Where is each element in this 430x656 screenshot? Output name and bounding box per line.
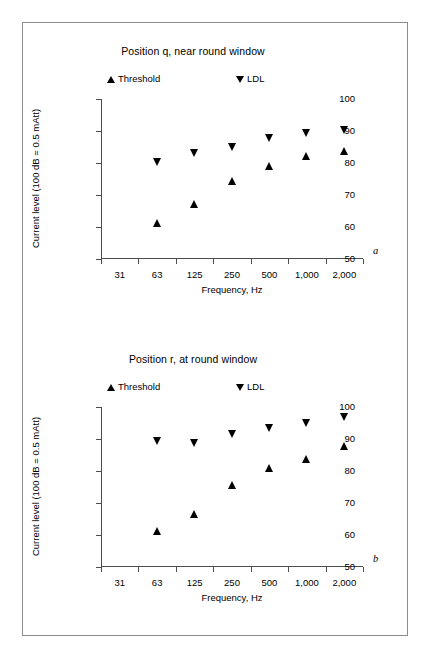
data-point-threshold bbox=[228, 481, 236, 489]
x-axis-tick bbox=[288, 259, 289, 264]
y-axis-tick-label: 70 bbox=[329, 498, 355, 508]
chart-panel-a: Position q, near round window Threshold … bbox=[23, 35, 409, 325]
x-axis-tick bbox=[101, 567, 102, 572]
y-axis-tick-label: 60 bbox=[329, 530, 355, 540]
x-axis-tick bbox=[326, 259, 327, 264]
panel-b-title: Position r, at round window bbox=[23, 353, 363, 365]
y-axis-tick bbox=[96, 227, 101, 228]
panel-a-title: Position q, near round window bbox=[23, 45, 363, 57]
y-axis-tick bbox=[96, 439, 101, 440]
panel-letter-a: a bbox=[373, 245, 378, 256]
legend-item-ldl-b: LDL bbox=[236, 381, 264, 392]
data-point-threshold bbox=[228, 177, 236, 185]
data-point-ldl bbox=[228, 430, 236, 438]
y-axis-tick bbox=[96, 99, 101, 100]
data-point-threshold bbox=[190, 200, 198, 208]
x-axis-tick bbox=[251, 567, 252, 572]
panel-letter-b: b bbox=[373, 553, 378, 564]
y-axis-tick bbox=[96, 163, 101, 164]
figure-frame: Position q, near round window Threshold … bbox=[22, 22, 408, 636]
x-axis-tick bbox=[101, 259, 102, 264]
y-axis-tick bbox=[96, 503, 101, 504]
x-axis-tick-label: 2,000 bbox=[322, 270, 366, 280]
y-axis-tick-label: 60 bbox=[329, 222, 355, 232]
y-axis-tick-label: 70 bbox=[329, 190, 355, 200]
triangle-down-icon bbox=[236, 384, 244, 391]
x-axis-line bbox=[101, 258, 363, 259]
triangle-up-icon bbox=[107, 76, 115, 83]
y-axis-tick bbox=[96, 131, 101, 132]
x-axis-tick bbox=[176, 259, 177, 264]
data-point-threshold bbox=[340, 147, 348, 155]
x-axis-tick bbox=[176, 567, 177, 572]
data-point-threshold bbox=[340, 442, 348, 450]
data-point-ldl bbox=[190, 149, 198, 157]
y-axis-tick-label: 100 bbox=[329, 402, 355, 412]
legend-item-ldl-a: LDL bbox=[236, 73, 264, 84]
x-axis-tick-label: 2,000 bbox=[322, 578, 366, 588]
x-axis-tick bbox=[138, 259, 139, 264]
legend-item-threshold-b: Threshold bbox=[107, 381, 160, 392]
chart-panel-b: Position r, at round window Threshold LD… bbox=[23, 343, 409, 633]
y-axis-tick-label: 80 bbox=[329, 158, 355, 168]
x-axis-tick bbox=[363, 567, 364, 572]
data-point-threshold bbox=[265, 464, 273, 472]
data-point-threshold bbox=[265, 162, 273, 170]
y-axis-tick-label: 50 bbox=[329, 254, 355, 264]
y-axis-tick bbox=[96, 471, 101, 472]
y-axis-tick-label: 80 bbox=[329, 466, 355, 476]
y-axis-tick bbox=[96, 195, 101, 196]
x-axis-tick bbox=[213, 567, 214, 572]
legend-label-threshold: Threshold bbox=[118, 381, 160, 392]
legend-label-threshold: Threshold bbox=[118, 73, 160, 84]
plot-area-a: Frequency, Hz Current level (100 dB = 0.… bbox=[101, 99, 363, 259]
x-axis-tick bbox=[251, 259, 252, 264]
y-axis-title: Current level (100 dB = 0.5 mAtt) bbox=[30, 89, 41, 269]
data-point-threshold bbox=[153, 219, 161, 227]
plot-area-b: Frequency, Hz Current level (100 dB = 0.… bbox=[101, 407, 363, 567]
x-axis-tick bbox=[138, 567, 139, 572]
data-point-ldl bbox=[228, 143, 236, 151]
data-point-ldl bbox=[340, 413, 348, 421]
data-point-threshold bbox=[302, 455, 310, 463]
x-axis-tick bbox=[326, 567, 327, 572]
triangle-down-icon bbox=[236, 76, 244, 83]
data-point-ldl bbox=[265, 424, 273, 432]
legend-label-ldl: LDL bbox=[247, 73, 264, 84]
data-point-threshold bbox=[153, 527, 161, 535]
x-axis-tick bbox=[363, 259, 364, 264]
data-point-ldl bbox=[340, 126, 348, 134]
y-axis-line bbox=[101, 407, 102, 567]
x-axis-line bbox=[101, 566, 363, 567]
y-axis-line bbox=[101, 99, 102, 259]
data-point-threshold bbox=[302, 152, 310, 160]
data-point-threshold bbox=[190, 510, 198, 518]
y-axis-tick bbox=[96, 535, 101, 536]
y-axis-tick-label: 50 bbox=[329, 562, 355, 572]
data-point-ldl bbox=[153, 158, 161, 166]
x-axis-title: Frequency, Hz bbox=[101, 284, 363, 295]
x-axis-title: Frequency, Hz bbox=[101, 592, 363, 603]
y-axis-tick-label: 100 bbox=[329, 94, 355, 104]
x-axis-tick bbox=[288, 567, 289, 572]
legend-item-threshold-a: Threshold bbox=[107, 73, 160, 84]
data-point-ldl bbox=[190, 439, 198, 447]
x-axis-tick bbox=[213, 259, 214, 264]
legend-label-ldl: LDL bbox=[247, 381, 264, 392]
y-axis-title: Current level (100 dB = 0.5 mAtt) bbox=[30, 397, 41, 577]
triangle-up-icon bbox=[107, 384, 115, 391]
data-point-ldl bbox=[265, 134, 273, 142]
data-point-ldl bbox=[302, 129, 310, 137]
data-point-ldl bbox=[153, 437, 161, 445]
data-point-ldl bbox=[302, 419, 310, 427]
y-axis-tick bbox=[96, 407, 101, 408]
